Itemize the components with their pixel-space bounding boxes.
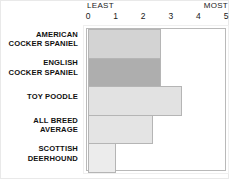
category-label-line2: COCKER SPANIEL — [0, 39, 78, 49]
axis-least-label: LEAST — [87, 1, 114, 10]
x-axis-header: LEAST MOST 012345 — [85, 1, 229, 26]
category-label-column: AMERICANCOCKER SPANIELENGLISHCOCKER SPAN… — [0, 26, 82, 174]
category-label-line1: SCOTTISH — [38, 144, 78, 153]
x-axis-tick-row: 012345 — [85, 11, 229, 24]
bar-3 — [88, 115, 153, 145]
category-label-line1: ENGLISH — [43, 58, 78, 67]
bars-layer — [87, 29, 227, 172]
category-label-line2: COCKER SPANIEL — [0, 68, 78, 78]
x-axis-tick-3: 3 — [164, 11, 178, 21]
x-axis-tick-2: 2 — [136, 11, 150, 21]
category-label-line1: TOY POODLE — [27, 92, 78, 101]
category-label-2: TOY POODLE — [0, 92, 78, 102]
category-label-line2: DEERHOUND — [0, 154, 78, 164]
category-label-4: SCOTTISHDEERHOUND — [0, 144, 78, 163]
category-label-line1: AMERICAN — [36, 30, 78, 39]
x-axis-tick-0: 0 — [81, 11, 95, 21]
bar-1 — [88, 58, 161, 88]
bar-2 — [88, 86, 182, 116]
bar-4 — [88, 143, 116, 173]
x-axis-tick-1: 1 — [109, 11, 123, 21]
x-axis-tick-4: 4 — [191, 11, 205, 21]
category-label-3: ALL BREEDAVERAGE — [0, 116, 78, 135]
category-label-0: AMERICANCOCKER SPANIEL — [0, 30, 78, 49]
plot-area — [86, 28, 226, 171]
category-label-line2: AVERAGE — [0, 125, 78, 135]
category-label-1: ENGLISHCOCKER SPANIEL — [0, 58, 78, 77]
category-label-line1: ALL BREED — [33, 116, 78, 125]
bar-0 — [88, 29, 161, 59]
bar-chart-figure: LEAST MOST 012345 AMERICANCOCKER SPANIEL… — [0, 0, 231, 181]
x-axis-tick-5: 5 — [219, 11, 231, 21]
axis-most-label: MOST — [204, 1, 228, 10]
